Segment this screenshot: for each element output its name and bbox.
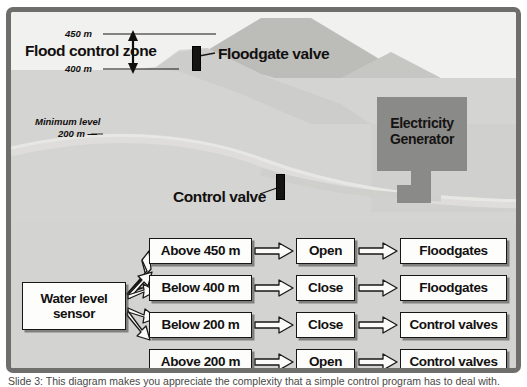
target-box-2[interactable]: Floodgates (400, 275, 507, 301)
flood-control-zone-label: Flood control zone (25, 43, 156, 59)
figure-caption: Slide 3: This diagram makes you apprecia… (8, 375, 523, 387)
level-450-label: 450 m (65, 29, 92, 39)
electricity-generator-label: Electricity Generator (382, 116, 462, 147)
generator-label-line-1: Electricity (390, 115, 454, 131)
diagram-frame: Flood control zone 450 m 400 m Minimum l… (6, 7, 521, 373)
floodgate-valve-icon (192, 46, 201, 71)
condition-box-2[interactable]: Below 400 m (149, 275, 252, 301)
action-box-4[interactable]: Open (296, 349, 355, 373)
action-box-2[interactable]: Close (296, 275, 355, 301)
water-level-sensor-box[interactable]: Water level sensor (22, 282, 126, 330)
generator-base (397, 185, 431, 203)
control-valve-icon (276, 174, 285, 200)
target-box-1[interactable]: Floodgates (400, 238, 507, 264)
generator-stem (411, 171, 431, 185)
control-valve-label: Control valve (173, 189, 266, 205)
action-box-3[interactable]: Close (296, 312, 355, 338)
action-box-1[interactable]: Open (296, 238, 355, 264)
floodgate-valve-label: Floodgate valve (218, 46, 329, 62)
level-400-label: 400 m (65, 64, 92, 74)
condition-box-3[interactable]: Below 200 m (149, 312, 252, 338)
condition-box-4[interactable]: Above 200 m (149, 349, 252, 373)
target-box-3[interactable]: Control valves (400, 312, 507, 338)
sensor-label-line-1: Water level (41, 291, 108, 306)
condition-box-1[interactable]: Above 450 m (149, 238, 252, 264)
sensor-label-line-2: sensor (53, 306, 95, 321)
target-box-4[interactable]: Control valves (400, 349, 507, 373)
minimum-level-label: Minimum level (35, 117, 100, 127)
generator-label-line-2: Generator (390, 131, 454, 147)
minimum-level-value: 200 m — (58, 129, 97, 139)
